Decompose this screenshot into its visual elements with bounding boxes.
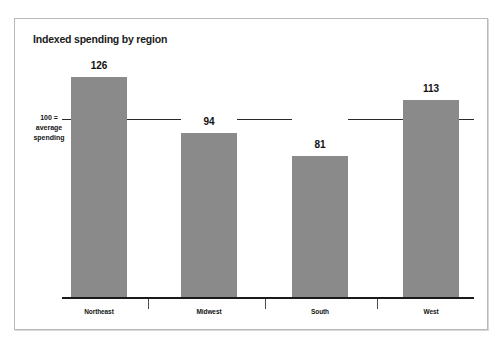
- reference-line-segment-3: [348, 119, 403, 120]
- category-label-west: West: [395, 308, 467, 315]
- bar-value-west: 113: [403, 83, 459, 94]
- x-axis-line: [62, 297, 474, 299]
- axis-tick-2: [265, 299, 266, 309]
- category-label-midwest: Midwest: [173, 308, 245, 315]
- plot-area: 100 = average spending 126 94 81 113 Nor…: [0, 0, 503, 352]
- reference-line-segment-1: [127, 119, 181, 120]
- axis-tick-1: [148, 299, 149, 309]
- bar-value-midwest: 94: [181, 116, 237, 127]
- bar-value-northeast: 126: [71, 60, 127, 71]
- reference-line-label: 100 = average spending: [28, 113, 70, 143]
- reference-line-label-line2: average: [28, 123, 70, 133]
- bar-south: [292, 156, 348, 297]
- axis-tick-3: [377, 299, 378, 309]
- bar-west: [403, 100, 459, 297]
- reference-line-segment-2: [237, 119, 292, 120]
- reference-line-label-line3: spending: [28, 133, 70, 143]
- reference-line-segment-4: [459, 119, 474, 120]
- bar-midwest: [181, 133, 237, 297]
- bar-value-south: 81: [292, 139, 348, 150]
- bar-northeast: [71, 77, 127, 297]
- chart-screenshot: Indexed spending by region 100 = average…: [0, 0, 503, 352]
- reference-line-label-line1: 100 =: [28, 113, 70, 123]
- category-label-south: South: [284, 308, 356, 315]
- category-label-northeast: Northeast: [63, 308, 135, 315]
